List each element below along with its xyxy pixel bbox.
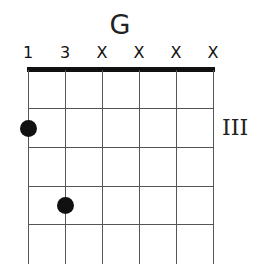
fret-line	[28, 108, 214, 109]
nut-bar	[27, 67, 215, 72]
fret-position-label: III	[222, 116, 248, 140]
string-marker-4: X	[129, 44, 149, 62]
string-line	[139, 70, 140, 264]
string-marker-3: X	[92, 44, 112, 62]
string-marker-2: 3	[55, 44, 75, 62]
fret-line	[28, 147, 214, 148]
fret-line	[28, 186, 214, 187]
chord-name: G	[0, 10, 240, 40]
string-line	[213, 70, 214, 264]
string-marker-6: X	[203, 44, 223, 62]
finger-dot	[20, 120, 37, 137]
finger-dot	[57, 197, 74, 214]
string-line	[28, 70, 29, 264]
string-line	[102, 70, 103, 264]
fret-line	[28, 224, 214, 225]
string-line	[176, 70, 177, 264]
string-marker-1: 1	[18, 44, 38, 62]
string-marker-5: X	[166, 44, 186, 62]
string-line	[65, 70, 66, 264]
